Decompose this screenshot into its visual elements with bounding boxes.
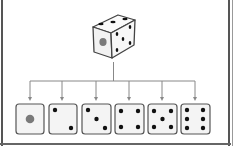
pip-icon — [94, 117, 98, 121]
arrow-down-icon — [193, 97, 197, 101]
pip-icon — [116, 32, 119, 36]
pip-icon — [119, 109, 123, 113]
pip-icon — [160, 117, 164, 121]
pip-icon — [122, 18, 127, 21]
arrow-down-icon — [160, 97, 164, 101]
arrow-down-icon — [28, 97, 32, 101]
one-pip-icon — [99, 38, 106, 46]
pip-icon — [129, 41, 132, 45]
pip-icon — [185, 108, 189, 112]
pip-icon — [201, 117, 205, 121]
pip-icon — [152, 109, 156, 113]
arrowheads — [28, 97, 197, 101]
diagram-frame — [0, 0, 233, 146]
pip-icon — [201, 126, 205, 130]
face-4 — [115, 104, 144, 134]
pip-icon — [185, 126, 189, 130]
arrow-down-icon — [94, 97, 98, 101]
pip-icon — [116, 48, 119, 52]
pip-icon — [98, 23, 103, 26]
pip-icon — [152, 125, 156, 129]
arrow-down-icon — [60, 97, 64, 101]
pip-icon — [169, 125, 173, 129]
pip-icon — [86, 108, 90, 112]
one-pip-icon — [26, 115, 35, 124]
pip-icon — [136, 109, 140, 113]
pip-icon — [201, 108, 205, 112]
pip-icon — [185, 117, 189, 121]
pip-icon — [119, 125, 123, 129]
connectors — [30, 62, 195, 98]
pip-icon — [69, 126, 73, 130]
pip-icon — [169, 109, 173, 113]
outcome-faces — [16, 104, 210, 134]
pip-icon — [103, 126, 107, 130]
pip-icon — [110, 21, 115, 24]
pip-icon — [136, 125, 140, 129]
arrow-down-icon — [127, 97, 131, 101]
die-outcomes-diagram — [0, 0, 233, 146]
root-die — [93, 15, 135, 58]
pip-icon — [122, 37, 125, 41]
pip-icon — [129, 25, 132, 29]
face-2 — [49, 104, 77, 134]
pip-icon — [53, 108, 57, 112]
